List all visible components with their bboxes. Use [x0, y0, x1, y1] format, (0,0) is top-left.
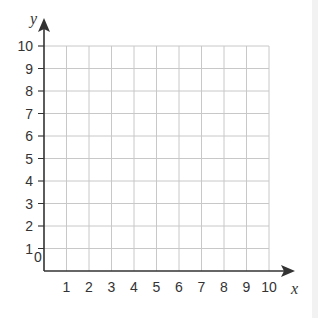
y-tick-label: 10 — [17, 38, 33, 54]
x-axis-label: x — [290, 280, 298, 297]
y-tick-label: 8 — [25, 83, 33, 99]
y-tick-label: 5 — [25, 151, 33, 167]
y-tick-labels: 12345678910 — [17, 38, 33, 257]
axes — [38, 18, 295, 277]
y-axis-label: y — [28, 10, 38, 28]
y-tick-label: 2 — [25, 218, 33, 234]
x-tick-label: 4 — [130, 279, 138, 295]
x-tick-label: 10 — [261, 279, 277, 295]
y-tick-label: 7 — [25, 106, 33, 122]
x-tick-label: 1 — [63, 279, 71, 295]
y-tick-label: 1 — [25, 241, 33, 257]
x-tick-labels: 12345678910 — [63, 279, 277, 295]
grid-lines — [38, 46, 269, 271]
x-tick-label: 8 — [220, 279, 228, 295]
x-tick-label: 2 — [85, 279, 93, 295]
y-tick-label: 3 — [25, 196, 33, 212]
origin-label: 0 — [34, 249, 42, 265]
x-tick-label: 7 — [198, 279, 206, 295]
y-tick-label: 6 — [25, 128, 33, 144]
y-tick-label: 4 — [25, 173, 33, 189]
x-tick-label: 6 — [175, 279, 183, 295]
x-tick-label: 5 — [153, 279, 161, 295]
coordinate-grid: 12345678910 12345678910 0 x y — [0, 0, 318, 318]
x-tick-label: 3 — [108, 279, 116, 295]
y-tick-label: 9 — [25, 61, 33, 77]
x-tick-label: 9 — [243, 279, 251, 295]
